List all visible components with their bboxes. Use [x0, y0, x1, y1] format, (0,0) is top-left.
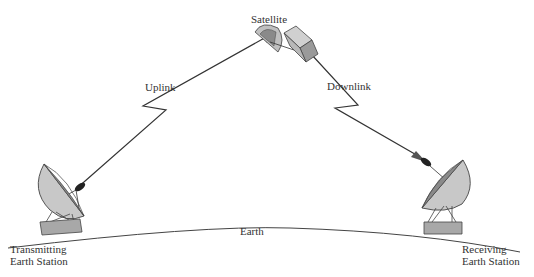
downlink-signal [300, 42, 426, 162]
transmitting-label-line2: Earth Station [10, 255, 68, 267]
receiving-label-line2: Earth Station [462, 255, 520, 267]
downlink-label: Downlink [327, 80, 371, 92]
receiving-station-label: Receiving Earth Station [462, 243, 520, 267]
transmitting-label-line1: Transmitting [10, 243, 68, 255]
satellite-icon [255, 25, 318, 62]
uplink-signal [76, 32, 276, 189]
transmitting-station-label: Transmitting Earth Station [10, 243, 68, 267]
satellite-label: Satellite [251, 13, 287, 25]
transmitting-dish-icon [38, 164, 86, 235]
earth-label: Earth [240, 225, 264, 237]
uplink-label: Uplink [145, 81, 176, 93]
satellite-link-diagram: Satellite Uplink Downlink Earth Transmit… [0, 0, 534, 277]
receiving-dish-icon [419, 156, 470, 234]
receiving-label-line1: Receiving [462, 243, 520, 255]
